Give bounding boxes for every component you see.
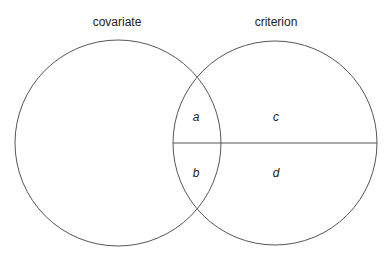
region-d-label: d: [273, 166, 280, 180]
region-b-label: b: [193, 166, 200, 180]
covariate-label: covariate: [93, 15, 142, 29]
region-a-label: a: [193, 110, 200, 124]
venn-diagram: [0, 0, 392, 259]
region-c-label: c: [273, 110, 279, 124]
criterion-label: criterion: [255, 15, 298, 29]
